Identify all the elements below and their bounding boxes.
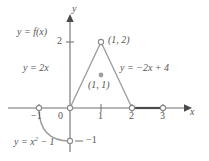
- annotation-parabola-prefix: y = x: [14, 136, 35, 147]
- open-circle-0-neg1: [67, 138, 72, 143]
- y-axis-label: y: [72, 4, 76, 14]
- filled-point-1-1: [99, 73, 104, 78]
- annotation-left-branch: y = 2x: [23, 63, 49, 73]
- x-tick-label-2: 2: [129, 111, 134, 121]
- segment-y-equals-2x: [70, 42, 101, 108]
- annotation-function-name: y = f(x): [17, 27, 47, 37]
- y-tick-label-neg1: −1: [86, 135, 97, 145]
- annotation-parabola: y = x2 − 1: [14, 136, 55, 147]
- x-tick-label-1: 1: [98, 111, 103, 121]
- annotation-parabola-suffix: − 1: [38, 136, 55, 147]
- x-tick-label-3: 3: [160, 111, 165, 121]
- annotation-point-peak: (1, 2): [108, 35, 130, 45]
- origin-label: 0: [58, 111, 63, 121]
- x-tick-label-neg1: −1: [31, 111, 42, 121]
- function-graph-figure: x y 0 −1 1 2 3 2 −1 y = f(x) y = 2x y = …: [0, 0, 209, 161]
- open-circle-origin: [67, 105, 72, 110]
- y-tick-label-2: 2: [57, 36, 62, 46]
- annotation-point-value: (1, 1): [88, 80, 110, 90]
- annotation-right-branch: y = −2x + 4: [120, 63, 169, 73]
- x-axis-label: x: [190, 107, 194, 117]
- y-axis-arrowhead: [66, 14, 73, 22]
- open-circle-peak-1-2: [98, 39, 103, 44]
- segment-y-equals-neg2x-plus-4: [101, 42, 132, 108]
